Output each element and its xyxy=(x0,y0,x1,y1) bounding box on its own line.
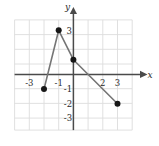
data-point xyxy=(115,101,121,107)
y-axis-name: y xyxy=(64,2,71,12)
y-tick-label-neg1: -1 xyxy=(64,84,72,94)
y-axis-arrowhead xyxy=(70,7,77,14)
x-tick-label-neg1: -1 xyxy=(55,78,63,88)
piecewise-line-segments xyxy=(44,30,118,104)
x-tick-label-2: 2 xyxy=(100,78,105,88)
data-point xyxy=(41,86,47,92)
coordinate-plane-plot: x y -3 -1 2 3 -1 -2 -3 3 xyxy=(0,0,159,146)
x-tick-label-neg3: -3 xyxy=(25,78,33,88)
x-axis-arrowhead xyxy=(140,71,148,78)
x-axis xyxy=(15,71,148,78)
peak-value-label: 3 xyxy=(67,26,72,36)
graph-figure: x y -3 -1 2 3 -1 -2 -3 3 xyxy=(0,0,159,146)
data-point xyxy=(56,27,62,33)
y-tick-label-neg3: -3 xyxy=(64,113,72,123)
x-tick-label-3: 3 xyxy=(115,78,120,88)
data-point xyxy=(70,57,76,63)
y-tick-label-neg2: -2 xyxy=(64,99,72,109)
x-axis-name: x xyxy=(147,70,152,80)
